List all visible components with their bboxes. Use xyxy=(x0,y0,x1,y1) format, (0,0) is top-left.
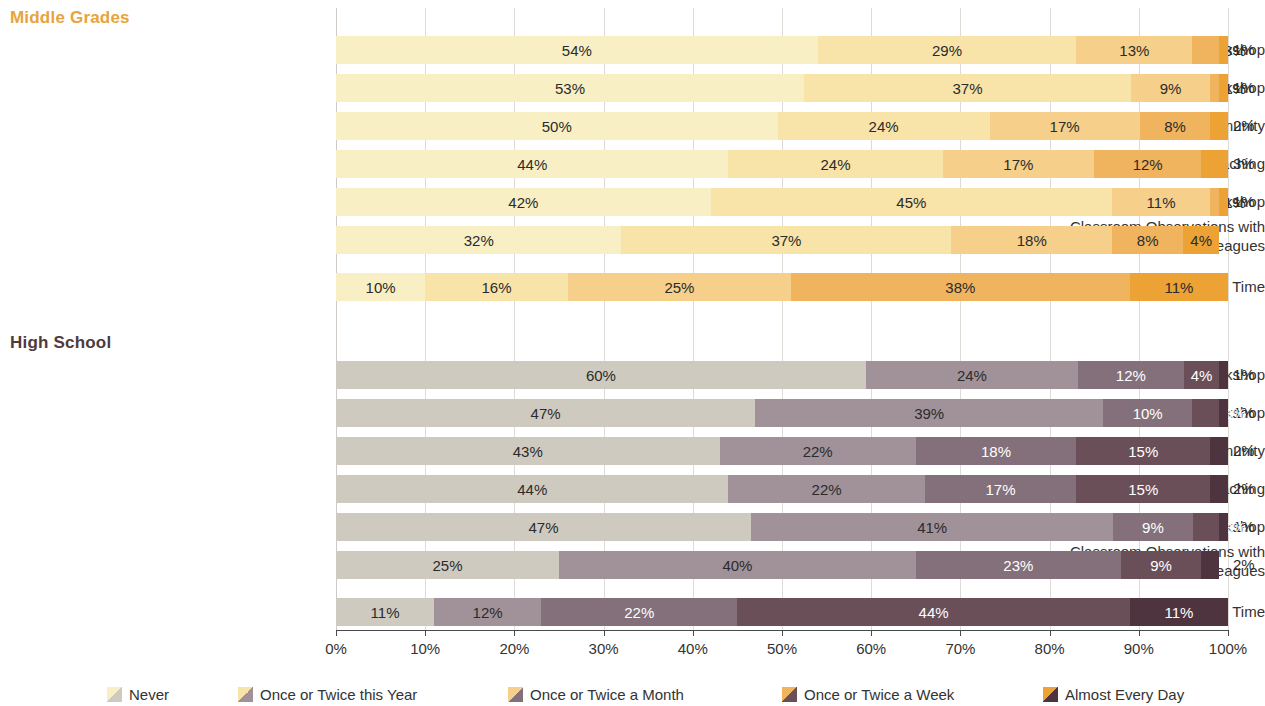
bar-segment: 29% xyxy=(818,36,1077,64)
bar-segment: 1% xyxy=(1210,188,1219,216)
legend-item[interactable]: Once or Twice this Year xyxy=(238,682,417,706)
bar-segment xyxy=(1219,36,1228,64)
bar-row: 44%22%17%15% xyxy=(336,475,1228,503)
bar-segment: 47% xyxy=(336,399,755,427)
bar-segment xyxy=(1219,74,1228,102)
bar-segment: 3% xyxy=(1193,513,1219,541)
bar-value-label: 44% xyxy=(919,605,949,620)
bar-value-label: 23% xyxy=(1003,558,1033,573)
x-axis-tick xyxy=(960,630,961,636)
bar-value-label: 40% xyxy=(722,558,752,573)
x-axis-tick xyxy=(514,630,515,636)
bar-value-label: 47% xyxy=(531,406,561,421)
bar-value-label: 44% xyxy=(517,482,547,497)
bar-value-label: 15% xyxy=(1128,444,1158,459)
bar-value-label: 50% xyxy=(542,119,572,134)
bar-value-label: 17% xyxy=(1050,119,1080,134)
bar-segment: 11% xyxy=(1112,188,1210,216)
legend-item[interactable]: Never xyxy=(107,682,169,706)
bar-value-label: 25% xyxy=(432,558,462,573)
bar-segment: 12% xyxy=(1078,361,1184,389)
bar-segment xyxy=(1201,551,1219,579)
bar-segment: 17% xyxy=(925,475,1077,503)
bar-segment xyxy=(1219,361,1228,389)
bar-segment: 50% xyxy=(336,112,778,140)
bar-segment: 41% xyxy=(751,513,1113,541)
bar-segment xyxy=(1201,150,1228,178)
section-header-middle-grades: Middle Grades xyxy=(10,8,130,28)
bar-segment: 18% xyxy=(916,437,1077,465)
bar-value-label: 37% xyxy=(771,233,801,248)
bar-segment: 38% xyxy=(791,273,1130,301)
bar-value-label: 29% xyxy=(932,43,962,58)
bar-value-label: 18% xyxy=(1017,233,1047,248)
bar-value-label: 44% xyxy=(517,157,547,172)
legend-label: Once or Twice this Year xyxy=(260,686,417,703)
bar-row: 53%37%9%1% xyxy=(336,74,1228,102)
bar-segment: 40% xyxy=(559,551,916,579)
bar-value-label: 18% xyxy=(981,444,1011,459)
x-axis-tick xyxy=(425,630,426,636)
bar-row: 42%45%11%1% xyxy=(336,188,1228,216)
bar-segment: 43% xyxy=(336,437,720,465)
x-axis-tick xyxy=(336,630,337,636)
bar-value-label: 43% xyxy=(513,444,543,459)
legend-swatch-3 xyxy=(508,687,523,702)
bar-row: 25%40%23%9% xyxy=(336,551,1228,579)
bar-row: 32%37%18%8%4% xyxy=(336,226,1228,254)
legend-item[interactable]: Once or Twice a Month xyxy=(508,682,684,706)
bar-value-label: 25% xyxy=(664,280,694,295)
bar-value-label: 17% xyxy=(1003,157,1033,172)
bar-row: 43%22%18%15% xyxy=(336,437,1228,465)
x-axis-tick xyxy=(1050,630,1051,636)
legend-label: Once or Twice a Month xyxy=(530,686,684,703)
legend-item[interactable]: Once or Twice a Week xyxy=(782,682,954,706)
x-axis-tick-label: 60% xyxy=(841,640,901,657)
bar-segment: 22% xyxy=(541,598,737,626)
legend-item[interactable]: Almost Every Day xyxy=(1043,682,1184,706)
bar-segment: 3% xyxy=(1192,399,1219,427)
bar-segment: 11% xyxy=(336,598,434,626)
bar-segment: 9% xyxy=(1121,551,1201,579)
bar-segment: 37% xyxy=(804,74,1131,102)
bar-value-label: 9% xyxy=(1150,558,1172,573)
bar-value-label: 16% xyxy=(482,280,512,295)
bar-value-label: 47% xyxy=(529,520,559,535)
bar-row: 47%39%10%3% xyxy=(336,399,1228,427)
x-axis-tick-label: 50% xyxy=(752,640,812,657)
bar-value-label: 22% xyxy=(812,482,842,497)
bar-segment: 25% xyxy=(336,551,559,579)
x-axis-tick xyxy=(782,630,783,636)
bar-value-label: 8% xyxy=(1164,119,1186,134)
bar-value-label-outside: 3% xyxy=(1233,150,1255,178)
bar-value-label: 11% xyxy=(1164,280,1193,295)
bar-row: 11%12%22%44%11% xyxy=(336,598,1228,626)
bar-segment: 47% xyxy=(336,513,751,541)
bar-value-label: 54% xyxy=(562,43,592,58)
x-axis-tick-label: 10% xyxy=(395,640,455,657)
x-axis-tick-label: 40% xyxy=(663,640,723,657)
bar-segment: 13% xyxy=(1076,36,1192,64)
bar-value-label: 39% xyxy=(914,406,944,421)
bar-segment: 44% xyxy=(737,598,1129,626)
bar-segment xyxy=(1219,513,1228,541)
bar-segment: 10% xyxy=(336,273,425,301)
legend-label: Almost Every Day xyxy=(1065,686,1184,703)
bar-value-label: 41% xyxy=(917,520,947,535)
bar-value-label: 24% xyxy=(869,119,899,134)
bar-segment: 44% xyxy=(336,475,728,503)
chart-legend: NeverOnce or Twice this YearOnce or Twic… xyxy=(0,682,1265,706)
bar-segment: 54% xyxy=(336,36,818,64)
bar-value-label: 11% xyxy=(1147,195,1176,210)
bar-value-label: 12% xyxy=(1133,157,1163,172)
legend-swatch-5 xyxy=(1043,687,1058,702)
legend-label: Never xyxy=(129,686,169,703)
bar-segment: 4% xyxy=(1184,361,1219,389)
bar-segment: 25% xyxy=(568,273,791,301)
bar-segment: 42% xyxy=(336,188,711,216)
bar-segment: 44% xyxy=(336,150,728,178)
x-axis-tick xyxy=(1139,630,1140,636)
bar-segment: 45% xyxy=(711,188,1112,216)
bar-segment xyxy=(1210,437,1228,465)
bar-segment: 15% xyxy=(1076,475,1210,503)
